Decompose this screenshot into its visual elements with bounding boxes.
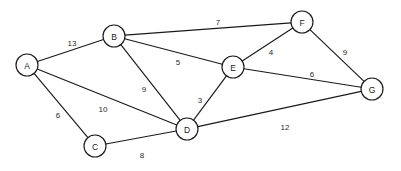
graph-edge-b-e xyxy=(125,39,223,64)
graph-edge-e-g xyxy=(244,69,361,88)
graph-node-a[interactable]: A xyxy=(16,54,38,76)
nodes-layer: ABCDEFG xyxy=(16,11,383,157)
edge-weight-a-b: 13 xyxy=(68,39,77,48)
node-label-d: D xyxy=(184,125,190,135)
graph-svg: ABCDEFG 136107598312469 xyxy=(0,0,401,171)
graph-diagram-canvas: ABCDEFG 136107598312469 xyxy=(0,0,401,171)
graph-node-g[interactable]: G xyxy=(361,78,383,100)
edge-weight-d-g: 12 xyxy=(281,123,290,132)
edge-weight-e-g: 6 xyxy=(310,70,315,79)
graph-edge-c-d xyxy=(106,131,176,144)
node-label-b: B xyxy=(111,32,117,42)
graph-node-f[interactable]: F xyxy=(291,11,313,33)
graph-edge-b-f xyxy=(125,23,291,35)
edge-weight-a-d: 10 xyxy=(99,105,108,114)
edge-weight-b-e: 5 xyxy=(176,58,181,67)
node-label-g: G xyxy=(369,85,376,95)
node-label-e: E xyxy=(230,63,236,73)
edges-layer xyxy=(34,23,364,144)
graph-edge-a-c xyxy=(34,73,88,137)
graph-edge-e-f xyxy=(242,28,293,61)
edge-weight-b-f: 7 xyxy=(216,18,221,27)
graph-edge-b-d xyxy=(121,45,180,121)
edge-weight-a-c: 6 xyxy=(56,111,61,120)
node-label-a: A xyxy=(24,61,30,71)
graph-node-d[interactable]: D xyxy=(176,118,198,140)
node-label-f: F xyxy=(299,18,304,28)
node-label-c: C xyxy=(92,142,98,152)
graph-edge-f-g xyxy=(310,30,364,82)
edge-weight-f-g: 9 xyxy=(343,48,348,57)
edge-weight-b-d: 9 xyxy=(142,85,147,94)
graph-edge-d-g xyxy=(198,91,361,126)
graph-node-c[interactable]: C xyxy=(84,135,106,157)
edge-weight-d-e: 3 xyxy=(198,96,203,105)
edge-weight-c-d: 8 xyxy=(140,151,145,160)
graph-node-b[interactable]: B xyxy=(103,25,125,47)
edge-weight-e-f: 4 xyxy=(269,48,274,57)
graph-node-e[interactable]: E xyxy=(222,56,244,78)
